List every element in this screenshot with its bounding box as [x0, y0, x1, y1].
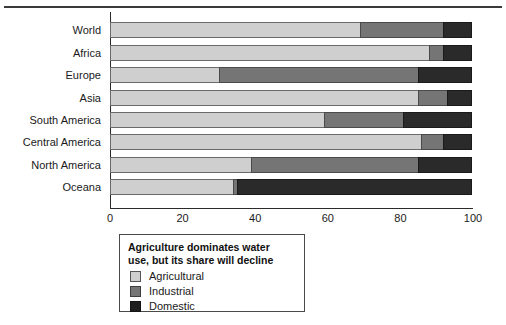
bar-segment-industrial[interactable] — [429, 45, 443, 61]
y-label-europe: Europe — [66, 67, 101, 83]
bar-segment-agricultural[interactable] — [110, 112, 324, 128]
bar-segment-agricultural[interactable] — [110, 179, 233, 195]
stacked-bar — [110, 179, 472, 195]
x-tick-40: 40 — [249, 212, 261, 224]
stacked-bar — [110, 157, 472, 173]
y-label-asia: Asia — [80, 90, 101, 106]
y-label-world: World — [72, 22, 101, 38]
x-tick-80: 80 — [394, 212, 406, 224]
bar-segment-agricultural[interactable] — [110, 22, 360, 38]
x-axis-line — [110, 208, 473, 209]
legend-title-line-1: Agriculture dominates water — [128, 241, 296, 254]
y-label-oceana: Oceana — [62, 179, 101, 195]
legend-swatch-domestic-icon — [130, 301, 141, 312]
bar-segment-agricultural[interactable] — [110, 67, 219, 83]
legend-label-industrial: Industrial — [149, 285, 194, 298]
x-axis-tick-labels: 0 20 40 60 80 100 — [110, 212, 473, 228]
bar-segment-industrial[interactable] — [421, 134, 443, 150]
bar-segment-industrial[interactable] — [360, 22, 443, 38]
bar-row-asia — [110, 90, 472, 106]
bar-row-central-america — [110, 134, 472, 150]
bar-segment-domestic[interactable] — [418, 157, 472, 173]
legend-item-domestic[interactable]: Domestic — [130, 299, 296, 314]
bar-segment-domestic[interactable] — [418, 67, 472, 83]
chart-page: World Africa Europe Asia South America C… — [0, 0, 506, 325]
bar-segment-agricultural[interactable] — [110, 90, 418, 106]
y-label-south-america: South America — [29, 112, 101, 128]
bar-segment-domestic[interactable] — [447, 90, 472, 106]
x-tick-0: 0 — [107, 212, 113, 224]
bar-segment-agricultural[interactable] — [110, 157, 251, 173]
y-label-central-america: Central America — [23, 134, 101, 150]
legend-title-line-2: use, but its share will decline — [128, 254, 296, 267]
stacked-bar — [110, 45, 472, 61]
bar-row-south-america — [110, 112, 472, 128]
top-divider-rule — [4, 6, 502, 8]
legend-item-industrial[interactable]: Industrial — [130, 284, 296, 299]
bar-row-europe — [110, 67, 472, 83]
legend-swatch-agricultural-icon — [130, 271, 141, 282]
stacked-bar — [110, 90, 472, 106]
legend-label-domestic: Domestic — [149, 300, 195, 313]
x-tick-100: 100 — [464, 212, 482, 224]
bar-segment-industrial[interactable] — [219, 67, 418, 83]
bar-segment-agricultural[interactable] — [110, 134, 421, 150]
stacked-bar — [110, 67, 472, 83]
x-tick-60: 60 — [322, 212, 334, 224]
bar-row-north-america — [110, 157, 472, 173]
legend-label-agricultural: Agricultural — [149, 270, 204, 283]
y-axis-category-labels: World Africa Europe Asia South America C… — [0, 12, 105, 205]
bar-segment-domestic[interactable] — [443, 45, 472, 61]
bar-row-africa — [110, 45, 472, 61]
legend-item-agricultural[interactable]: Agricultural — [130, 269, 296, 284]
x-tick-20: 20 — [176, 212, 188, 224]
y-label-north-america: North America — [31, 157, 101, 173]
bar-segment-agricultural[interactable] — [110, 45, 429, 61]
stacked-bar — [110, 22, 472, 38]
bar-row-oceana — [110, 179, 472, 195]
y-label-africa: Africa — [73, 45, 101, 61]
legend-swatch-industrial-icon — [130, 286, 141, 297]
bar-segment-industrial[interactable] — [324, 112, 404, 128]
bar-segment-domestic[interactable] — [443, 134, 472, 150]
chart-legend: Agriculture dominates water use, but its… — [119, 234, 305, 312]
bar-segment-domestic[interactable] — [237, 179, 472, 195]
stacked-bar — [110, 112, 472, 128]
bar-segment-domestic[interactable] — [443, 22, 472, 38]
bar-segment-industrial[interactable] — [418, 90, 447, 106]
stacked-bar — [110, 134, 472, 150]
bar-row-world — [110, 22, 472, 38]
legend-title: Agriculture dominates water use, but its… — [128, 241, 296, 266]
bar-segment-domestic[interactable] — [403, 112, 472, 128]
bar-segment-industrial[interactable] — [251, 157, 418, 173]
plot-area — [110, 12, 472, 205]
